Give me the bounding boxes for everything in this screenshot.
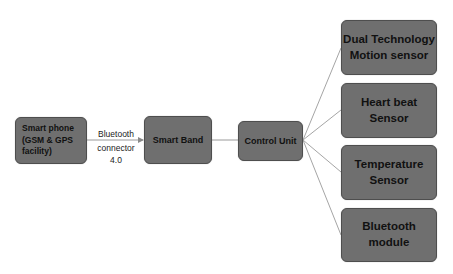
node-label: facility) (22, 146, 52, 157)
edge-label-bluetooth-connector: Bluetooth connector 4.0 (89, 129, 143, 167)
node-label: Bluetooth (362, 219, 416, 235)
node-smart-band: Smart Band (144, 116, 212, 164)
node-control-unit: Control Unit (238, 121, 303, 161)
node-label: module (369, 235, 410, 251)
node-heart-beat-sensor: Heart beat Sensor (341, 83, 437, 138)
node-bluetooth-module: Bluetooth module (341, 208, 437, 262)
node-smart-phone: Smart phone (GSM & GPS facility) (15, 117, 87, 164)
node-label: Heart beat (361, 95, 417, 111)
edge-control-to-dual (303, 48, 341, 140)
node-label: Smart phone (22, 123, 74, 134)
edge-label-line: Bluetooth (89, 129, 143, 141)
edge-control-to-bt (303, 140, 341, 235)
node-label: Control Unit (245, 135, 297, 147)
node-temperature-sensor: Temperature Sensor (341, 145, 437, 200)
node-label: Motion sensor (350, 48, 429, 64)
node-label: Sensor (370, 111, 409, 127)
node-label: (GSM & GPS (22, 135, 73, 146)
node-label: Dual Technology (343, 32, 435, 48)
node-label: Smart Band (153, 134, 204, 146)
node-label: Temperature (355, 157, 424, 173)
block-diagram: Bluetooth connector 4.0 Smart phone (GSM… (0, 0, 453, 274)
node-label: Sensor (370, 173, 409, 189)
edge-control-to-temp (303, 140, 341, 172)
edge-label-line: 4.0 (89, 155, 143, 167)
node-dual-technology-motion-sensor: Dual Technology Motion sensor (341, 20, 437, 75)
edge-label-line: connector (89, 143, 143, 155)
